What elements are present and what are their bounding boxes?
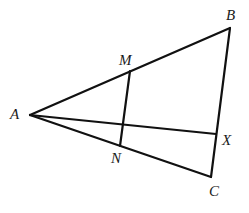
label-x: X <box>221 132 232 148</box>
label-b: B <box>226 7 235 23</box>
segment-bc <box>211 28 230 177</box>
label-m: M <box>118 52 133 68</box>
label-c: C <box>209 183 220 199</box>
segment-mn <box>120 71 130 146</box>
label-a: A <box>9 106 20 122</box>
label-n: N <box>110 150 122 166</box>
triangle-diagram: A B M N X C <box>0 0 249 213</box>
